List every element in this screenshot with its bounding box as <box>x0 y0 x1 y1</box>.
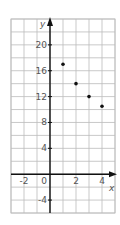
x-tick-label: 4 <box>99 176 105 186</box>
x-tick-label: 0 <box>41 176 47 186</box>
scatter-chart: -2024-448121620 x y <box>0 0 120 225</box>
x-axis-label: x <box>108 183 115 193</box>
data-point <box>87 95 91 99</box>
x-tick-label: 2 <box>73 176 79 186</box>
data-point <box>74 82 78 86</box>
y-tick-label: 8 <box>41 117 47 127</box>
x-tick-label: -2 <box>20 176 29 186</box>
data-point <box>61 62 65 66</box>
y-tick-label: 20 <box>36 40 48 50</box>
y-tick-label: 12 <box>36 92 47 102</box>
y-tick-label: 4 <box>41 143 47 153</box>
y-tick-label: 16 <box>36 66 48 76</box>
data-point <box>100 105 104 109</box>
y-axis-label: y <box>39 19 46 29</box>
y-tick-label: -4 <box>38 195 47 205</box>
